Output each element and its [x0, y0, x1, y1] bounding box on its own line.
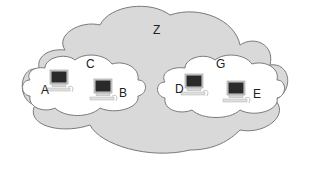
- label-g: G: [216, 58, 225, 70]
- label-a: A: [41, 84, 49, 96]
- label-b: B: [119, 87, 127, 99]
- label-e: E: [253, 88, 261, 100]
- label-z: Z: [153, 24, 160, 36]
- label-c: C: [86, 58, 95, 70]
- label-d: D: [175, 83, 184, 95]
